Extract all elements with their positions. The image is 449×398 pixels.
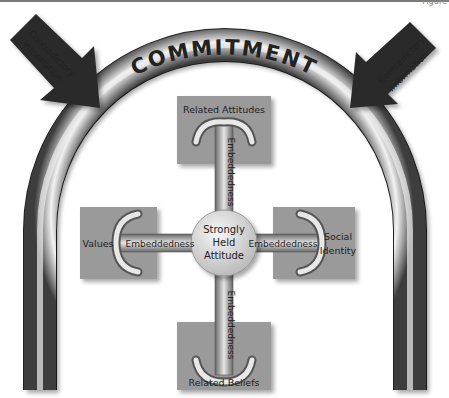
embeddedness-right: Embeddedness xyxy=(249,239,318,249)
label-identity: Identity xyxy=(320,245,357,256)
label-social: Social xyxy=(324,231,352,242)
embeddedness-top: Embeddedness xyxy=(226,138,236,207)
label-values: Values xyxy=(82,238,113,249)
center-line3: Attitude xyxy=(204,250,244,261)
label-related-beliefs: Related Beliefs xyxy=(189,377,260,388)
label-related-attitudes: Related Attitudes xyxy=(183,104,265,115)
center-line2: Held xyxy=(213,237,236,248)
center-line1: Strongly xyxy=(203,224,245,235)
embeddedness-bottom: Embeddedness xyxy=(226,291,236,360)
commitment-diagram: COMMITMENT Contradictory information Con… xyxy=(0,0,449,398)
embeddedness-left: Embeddedness xyxy=(126,239,195,249)
